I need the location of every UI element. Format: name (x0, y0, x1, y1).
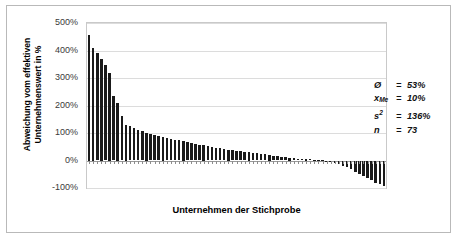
bar (133, 128, 136, 160)
x-axis-tick (363, 161, 364, 164)
bar (211, 147, 214, 160)
x-axis-tick (323, 161, 324, 164)
x-axis-tick (343, 161, 344, 164)
stat-median-symbol: xMe (374, 92, 396, 106)
bar (153, 135, 156, 160)
x-axis-tick (122, 161, 123, 164)
x-axis-tick (191, 161, 192, 164)
bar (207, 146, 210, 160)
bar (252, 153, 255, 161)
x-axis-tick (179, 161, 180, 164)
stat-mean-symbol: Ø (374, 79, 396, 92)
x-axis-tick (175, 161, 176, 164)
bar-series (87, 23, 386, 188)
stat-variance: s2=136% (374, 106, 431, 123)
x-axis-tick (368, 161, 369, 164)
y-axis-tick-label: 300% (55, 72, 78, 82)
x-axis-tick (302, 161, 303, 164)
bar (190, 143, 193, 161)
stat-variance-equals: = (396, 110, 407, 123)
y-axis-tick-labels: 500%400%300%200%100%0%-100% (30, 18, 82, 193)
bar (166, 138, 169, 161)
x-axis-tick (220, 161, 221, 164)
x-axis-tick (241, 161, 242, 164)
bar (137, 130, 140, 161)
x-axis-tick (277, 161, 278, 164)
stat-count: n=73 (374, 124, 431, 137)
x-axis-tick (114, 161, 115, 164)
bar (383, 161, 386, 186)
x-axis-tick (298, 161, 299, 164)
x-axis-tick (282, 161, 283, 164)
x-axis-tick (249, 161, 250, 164)
bar (186, 142, 189, 160)
y-axis-tick-label: 100% (55, 127, 78, 137)
bar (141, 131, 144, 160)
bar (256, 153, 259, 160)
bar (108, 73, 111, 161)
bar (374, 161, 377, 183)
bar (104, 65, 107, 160)
x-axis-tick (110, 161, 111, 164)
x-axis-tick (224, 161, 225, 164)
bar (145, 133, 148, 161)
x-axis-tick (355, 161, 356, 164)
x-axis-tick (245, 161, 246, 164)
x-axis-tick (310, 161, 311, 164)
x-axis-tick (171, 161, 172, 164)
x-axis-tick (155, 161, 156, 164)
x-axis-tick (376, 161, 377, 164)
bar (379, 161, 382, 185)
bar (125, 125, 128, 161)
stat-median-value: 10% (407, 92, 425, 105)
y-axis-tick-label: 200% (55, 100, 78, 110)
stat-variance-superscript: 2 (379, 109, 383, 116)
bar (243, 152, 246, 161)
x-axis-tick (208, 161, 209, 164)
x-axis-tick (138, 161, 139, 164)
bar (202, 145, 205, 160)
x-axis-tick (89, 161, 90, 164)
statistics-block: Ø=53% xMe=10% s2=136% n=73 (374, 79, 431, 137)
x-axis-tick (261, 161, 262, 164)
bar (194, 144, 197, 161)
x-axis-tick (142, 161, 143, 164)
gridline (87, 188, 386, 189)
stat-median: xMe=10% (374, 92, 431, 106)
bar (239, 151, 242, 160)
bar (182, 141, 185, 160)
bar (88, 35, 91, 160)
bar (96, 53, 99, 161)
bar (112, 96, 115, 161)
x-axis-tick (327, 161, 328, 164)
bar (231, 150, 234, 160)
x-axis-tick (200, 161, 201, 164)
bar (129, 126, 132, 160)
x-axis-tick (146, 161, 147, 164)
x-axis-tick (126, 161, 127, 164)
x-axis-tick (347, 161, 348, 164)
bar (149, 134, 152, 160)
stat-count-value: 73 (407, 124, 417, 137)
bar (260, 154, 263, 161)
x-axis-tick (163, 161, 164, 164)
x-axis-tick (372, 161, 373, 164)
x-axis-tick (273, 161, 274, 164)
x-axis-tick (331, 161, 332, 164)
bar (215, 148, 218, 161)
stat-mean-equals: = (396, 79, 407, 92)
bar (235, 151, 238, 161)
x-axis-tick (265, 161, 266, 164)
x-axis-tick (101, 161, 102, 164)
x-axis-tick (118, 161, 119, 164)
bar (248, 152, 251, 160)
bar (223, 149, 226, 161)
bar (100, 59, 103, 161)
x-axis-tick (150, 161, 151, 164)
bar (157, 136, 160, 160)
stat-median-equals: = (396, 92, 407, 105)
x-axis-tick (105, 161, 106, 164)
x-axis-tick (384, 161, 385, 164)
x-axis-tick (187, 161, 188, 164)
x-axis-tick (196, 161, 197, 164)
